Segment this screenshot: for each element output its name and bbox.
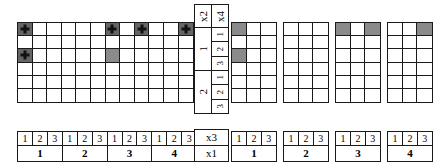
grid-cell — [232, 63, 247, 76]
left-label-group-4-number: 4 — [152, 146, 196, 161]
grid-cell — [135, 89, 150, 102]
middle-panel-block-2: 2 1 2 3 — [195, 71, 228, 113]
left-label-group-1: 1 2 3 1 — [17, 131, 63, 162]
grid-cell — [365, 49, 380, 62]
grid-cell-plus — [135, 23, 150, 36]
plus-marker-icon — [181, 25, 190, 34]
left-label-group-3: 1 2 3 3 — [107, 131, 153, 162]
grid-cell — [403, 49, 418, 62]
grid-cell — [120, 23, 135, 36]
grid-cell — [120, 76, 135, 89]
diagram-canvas: 1 2 3 1 1 2 3 2 1 2 3 3 1 2 3 4 — [0, 0, 436, 166]
grid-cell — [261, 63, 276, 76]
middle-panel-block-2-sub-3: 3 — [212, 100, 228, 113]
left-label-3-sub-3: 3 — [137, 132, 151, 145]
grid-cell — [33, 89, 48, 102]
grid-cell — [313, 49, 328, 62]
grid-cell — [336, 76, 351, 89]
plus-marker-icon — [20, 25, 29, 34]
right-grid-2 — [283, 22, 329, 103]
right-label-group-1-number: 1 — [232, 146, 276, 161]
grid-cell — [284, 23, 299, 36]
grid-cell — [247, 49, 262, 62]
left-factor-grid — [17, 22, 194, 103]
right-label-3-sub-1: 1 — [336, 132, 351, 145]
grid-cell — [62, 89, 77, 102]
grid-cell — [164, 89, 179, 102]
right-label-4-sub-3: 3 — [418, 132, 432, 145]
middle-panel-block-2-subs: 1 2 3 — [212, 71, 228, 113]
left-label-group-1-subs: 1 2 3 — [18, 132, 62, 146]
grid-cell — [388, 76, 403, 89]
grid-cell — [179, 76, 194, 89]
grid-cell — [417, 76, 432, 89]
grid-cell — [120, 36, 135, 49]
grid-cell — [76, 49, 91, 62]
grid-cell — [299, 89, 314, 102]
right-label-1-sub-2: 2 — [247, 132, 262, 145]
grid-cell — [261, 89, 276, 102]
grid-cell — [18, 63, 33, 76]
grid-cell — [351, 63, 366, 76]
grid-cell — [351, 23, 366, 36]
grid-cell — [164, 49, 179, 62]
right-label-3-sub-2: 2 — [351, 132, 366, 145]
grid-cell — [149, 49, 164, 62]
grid-cell-shaded — [336, 23, 351, 36]
right-label-4-sub-1: 1 — [388, 132, 403, 145]
grid-cell — [179, 49, 194, 62]
left-label-group-4: 1 2 3 4 — [151, 131, 197, 162]
grid-cell — [149, 76, 164, 89]
grid-cell — [247, 63, 262, 76]
plus-marker-icon — [137, 25, 146, 34]
grid-cell — [365, 89, 380, 102]
grid-cell — [120, 63, 135, 76]
grid-cell — [179, 63, 194, 76]
middle-panel-block-1-sub-2: 2 — [212, 42, 228, 56]
grid-cell — [299, 23, 314, 36]
middle-panel-block-1-subs: 1 2 3 — [212, 28, 228, 70]
left-label-3-sub-1: 1 — [108, 132, 123, 145]
grid-cell — [179, 36, 194, 49]
left-label-2-sub-1: 1 — [63, 132, 78, 145]
grid-cell — [403, 36, 418, 49]
left-label-1-sub-1: 1 — [18, 132, 33, 145]
grid-cell — [365, 76, 380, 89]
grid-cell — [33, 23, 48, 36]
left-label-group-4-subs: 1 2 3 — [152, 132, 196, 146]
grid-cell — [47, 36, 62, 49]
grid-cell — [135, 49, 150, 62]
right-label-group-4: 1 2 3 4 — [387, 131, 433, 162]
grid-cell — [120, 49, 135, 62]
left-label-4-sub-2: 2 — [167, 132, 182, 145]
grid-cell — [247, 23, 262, 36]
grid-cell-plus — [18, 23, 33, 36]
left-label-1-sub-3: 3 — [48, 132, 62, 145]
grid-cell — [120, 89, 135, 102]
grid-cell — [232, 36, 247, 49]
multiplier-box-x3: x3 — [195, 130, 228, 146]
grid-cell — [164, 23, 179, 36]
grid-cell — [91, 49, 106, 62]
grid-cell — [388, 23, 403, 36]
grid-cell-plus — [179, 23, 194, 36]
grid-cell — [365, 36, 380, 49]
grid-cell — [33, 49, 48, 62]
grid-cell — [33, 36, 48, 49]
right-label-group-3: 1 2 3 3 — [335, 131, 381, 162]
right-label-group-2-subs: 1 2 3 — [284, 132, 328, 146]
grid-cell — [232, 89, 247, 102]
right-label-group-1-subs: 1 2 3 — [232, 132, 276, 146]
grid-cell — [365, 63, 380, 76]
grid-cell — [388, 63, 403, 76]
grid-cell — [417, 63, 432, 76]
grid-cell — [91, 23, 106, 36]
grid-cell — [313, 89, 328, 102]
multiplier-box-x1: x1 — [195, 146, 228, 161]
grid-cell — [336, 89, 351, 102]
grid-cell — [336, 36, 351, 49]
grid-cell — [417, 89, 432, 102]
left-label-group-2-subs: 1 2 3 — [63, 132, 107, 146]
grid-cell — [47, 76, 62, 89]
grid-cell — [91, 36, 106, 49]
